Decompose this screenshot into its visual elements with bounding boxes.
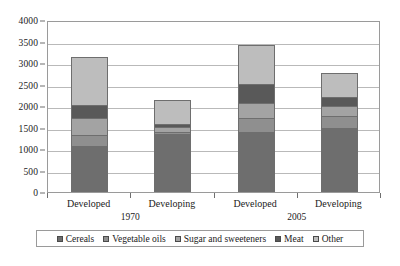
y-axis-tick-label: 500 bbox=[23, 167, 38, 177]
bar-segment bbox=[72, 106, 107, 118]
bar-stack bbox=[154, 100, 191, 192]
legend-item: Vegetable oils bbox=[103, 234, 166, 244]
legend-swatch-icon bbox=[175, 236, 181, 242]
y-axis-tick-label: 1000 bbox=[19, 145, 38, 155]
legend-swatch-icon bbox=[275, 236, 281, 242]
y-axis-tick-mark bbox=[40, 64, 45, 65]
y-axis-tick-label: 3500 bbox=[19, 38, 38, 48]
bar-segment bbox=[72, 136, 107, 147]
y-axis-tick-label: 3000 bbox=[19, 59, 38, 69]
bar-segment bbox=[72, 147, 107, 191]
legend-label: Sugar and sweeteners bbox=[184, 234, 266, 244]
bar-stack bbox=[71, 57, 108, 192]
y-axis-tick-label: 0 bbox=[33, 188, 38, 198]
y-axis-tick-label: 2000 bbox=[19, 102, 38, 112]
bar-segment bbox=[322, 107, 357, 117]
x-axis-label: Developed bbox=[67, 198, 110, 209]
y-axis: 40003500300025002000150010005000 bbox=[0, 21, 45, 193]
legend-item: Other bbox=[313, 234, 344, 244]
bar-segment bbox=[322, 129, 357, 191]
x-axis-tick-mark bbox=[47, 193, 48, 198]
x-axis-tick-mark bbox=[130, 193, 131, 198]
y-axis-tick-label: 4000 bbox=[19, 16, 38, 26]
legend-swatch-icon bbox=[313, 236, 319, 242]
bar-segment bbox=[239, 85, 274, 103]
y-axis-tick-label: 1500 bbox=[19, 124, 38, 134]
x-axis-tick-mark bbox=[297, 193, 298, 198]
legend-item: Meat bbox=[275, 234, 304, 244]
gridline bbox=[48, 44, 379, 45]
bar-segment bbox=[72, 119, 107, 136]
bar-segment bbox=[155, 101, 190, 125]
y-axis-tick-mark bbox=[40, 85, 45, 86]
bar-segment bbox=[72, 58, 107, 107]
plot-area bbox=[47, 21, 380, 193]
x-axis-group-label: 2005 bbox=[287, 212, 306, 222]
bar-segment bbox=[239, 46, 274, 86]
legend-label: Meat bbox=[284, 234, 304, 244]
x-axis-label: Developing bbox=[149, 198, 196, 209]
y-axis-tick-mark bbox=[40, 42, 45, 43]
stacked-bar-chart: 40003500300025002000150010005000 Develop… bbox=[0, 0, 400, 266]
y-axis-tick-mark bbox=[40, 193, 45, 194]
legend-label: Other bbox=[322, 234, 344, 244]
bar-segment bbox=[239, 133, 274, 191]
x-axis-label: Developing bbox=[315, 198, 362, 209]
bar-segment bbox=[322, 98, 357, 106]
legend-item: Sugar and sweeteners bbox=[175, 234, 266, 244]
legend-item: Cereals bbox=[57, 234, 95, 244]
bar-stack bbox=[321, 73, 358, 192]
legend-swatch-icon bbox=[103, 236, 109, 242]
y-axis-tick-mark bbox=[40, 21, 45, 22]
y-axis-tick-mark bbox=[40, 171, 45, 172]
bar-segment bbox=[239, 119, 274, 133]
bar-segment bbox=[155, 135, 190, 191]
x-axis-tick-mark bbox=[380, 193, 381, 198]
bar-segment bbox=[239, 104, 274, 119]
y-axis-tick-label: 2500 bbox=[19, 81, 38, 91]
y-axis-tick-mark bbox=[40, 107, 45, 108]
bar-segment bbox=[322, 117, 357, 130]
legend-label: Vegetable oils bbox=[112, 234, 166, 244]
legend-swatch-icon bbox=[57, 236, 63, 242]
bar-segment bbox=[322, 74, 357, 99]
chart-legend: CerealsVegetable oilsSugar and sweetener… bbox=[36, 230, 364, 247]
y-axis-tick-mark bbox=[40, 150, 45, 151]
x-axis-label: Developed bbox=[233, 198, 276, 209]
x-axis-group-label: 1970 bbox=[121, 212, 140, 222]
y-axis-tick-mark bbox=[40, 128, 45, 129]
legend-label: Cereals bbox=[66, 234, 95, 244]
x-axis-tick-mark bbox=[214, 193, 215, 198]
bar-stack bbox=[238, 45, 275, 192]
